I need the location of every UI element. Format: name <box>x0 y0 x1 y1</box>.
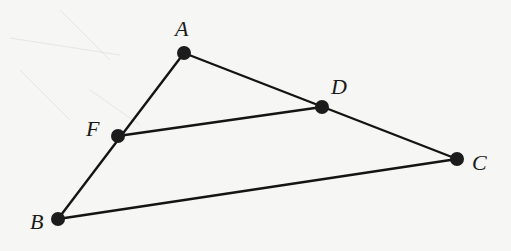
segment-BC <box>58 159 457 219</box>
geometry-diagram: A D F C B <box>0 0 511 251</box>
segment-FD <box>118 107 322 136</box>
point-C <box>450 152 464 166</box>
points <box>51 46 464 226</box>
point-F <box>111 129 125 143</box>
point-B <box>51 212 65 226</box>
label-D: D <box>331 76 347 98</box>
label-B: B <box>30 211 43 233</box>
label-C: C <box>472 152 487 174</box>
label-A: A <box>175 18 188 40</box>
point-D <box>315 100 329 114</box>
point-A <box>177 46 191 60</box>
background-texture <box>10 10 140 125</box>
label-F: F <box>86 118 99 140</box>
triangle-figure <box>0 0 511 251</box>
